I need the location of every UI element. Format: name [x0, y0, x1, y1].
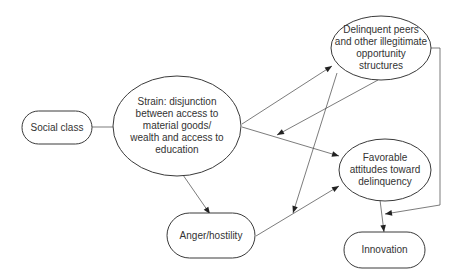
node-delinquent-peers-line-4: structures	[359, 60, 403, 72]
node-delinquent-peers-line-1: Delinquent peers	[343, 24, 419, 36]
node-favorable-attitudes-line-3: delinquency	[358, 176, 411, 188]
node-strain: Strain: disjunction between access to ma…	[113, 76, 241, 176]
edge-delinquent-peers-to-strain	[277, 80, 378, 135]
node-delinquent-peers-line-2: and other illegitimate	[335, 36, 427, 48]
edge-delinquent-peers-to-anger	[293, 73, 337, 213]
node-anger-label: Anger/hostility	[180, 230, 243, 242]
edge-anger-to-favorable-attitudes	[256, 186, 339, 236]
edge-strain-to-favorable-attitudes	[242, 127, 339, 156]
node-strain-line-4: wealth and access to	[130, 132, 223, 144]
node-favorable-attitudes-line-1: Favorable	[363, 152, 407, 164]
node-favorable-attitudes: Favorable attitudes toward delinquency	[339, 139, 431, 201]
node-delinquent-peers: Delinquent peers and other illegitimate …	[331, 16, 431, 80]
edge-strain-to-anger	[183, 175, 210, 214]
node-strain-line-5: education	[155, 144, 198, 156]
node-innovation: Innovation	[344, 232, 425, 268]
node-anger: Anger/hostility	[167, 213, 255, 258]
edge-strain-to-delinquent-peers	[242, 66, 332, 124]
node-strain-line-1: Strain: disjunction	[138, 96, 217, 108]
node-social-class-label: Social class	[31, 122, 84, 134]
node-social-class: Social class	[22, 111, 92, 144]
node-strain-line-2: between access to	[136, 108, 219, 120]
node-strain-line-3: material goods/	[143, 120, 211, 132]
node-delinquent-peers-line-3: opportunity	[356, 48, 405, 60]
node-innovation-label: Innovation	[361, 244, 407, 256]
edge-favorable-attitudes-to-innovation	[380, 200, 384, 232]
node-favorable-attitudes-line-2: attitudes toward	[350, 164, 421, 176]
